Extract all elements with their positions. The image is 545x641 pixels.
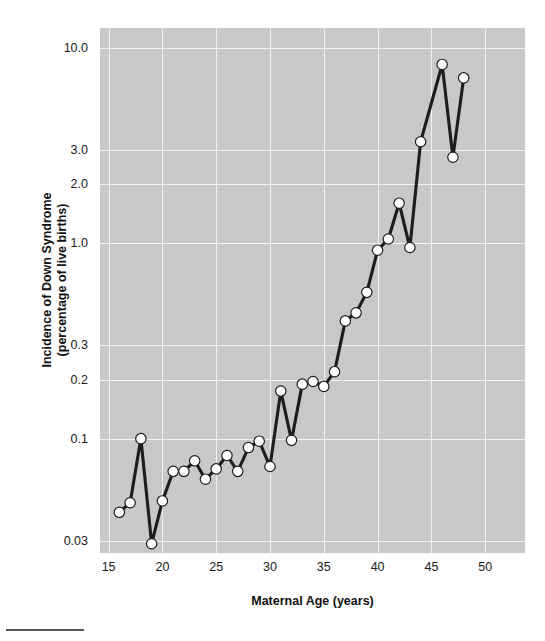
x-tick-label: 15 xyxy=(102,560,116,574)
x-tick-label: 45 xyxy=(424,560,438,574)
footer-rule xyxy=(6,629,84,631)
y-axis-title: Incidence of Down Syndrome (percentage o… xyxy=(40,130,70,430)
y-axis-title-line-2: (percentage of live births) xyxy=(55,130,70,430)
x-tick-label: 20 xyxy=(155,560,169,574)
chart-figure: 0.030.10.20.31.02.03.010.0 1520253035404… xyxy=(0,0,545,641)
y-axis-title-line-1: Incidence of Down Syndrome xyxy=(40,192,54,367)
x-tick-label: 35 xyxy=(317,560,331,574)
x-tick-label: 50 xyxy=(478,560,492,574)
x-tick-label: 25 xyxy=(209,560,223,574)
x-axis-tick-labels: 1520253035404550 xyxy=(0,0,545,641)
x-axis-title: Maternal Age (years) xyxy=(100,594,525,608)
x-tick-label: 30 xyxy=(263,560,277,574)
x-tick-label: 40 xyxy=(371,560,385,574)
